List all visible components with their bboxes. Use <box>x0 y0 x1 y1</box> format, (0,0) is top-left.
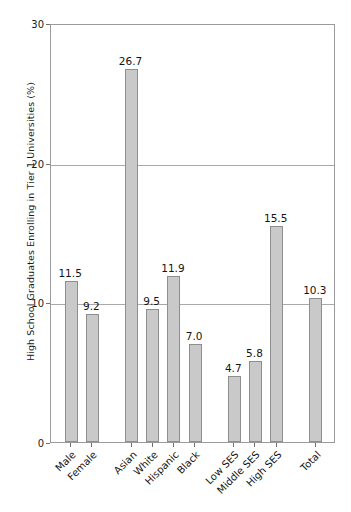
plot-area <box>50 24 335 443</box>
gridline <box>51 165 334 166</box>
bar <box>146 309 159 442</box>
bar <box>309 298 322 442</box>
bar-value-label: 7.0 <box>186 330 203 342</box>
bar <box>65 281 78 442</box>
bar-value-label: 15.5 <box>264 212 287 224</box>
bar <box>125 69 138 442</box>
bar-value-label: 9.2 <box>83 300 100 312</box>
bar-value-label: 11.5 <box>58 267 81 279</box>
y-axis-tick-label: 20 <box>18 158 44 169</box>
bar <box>189 344 202 442</box>
bar-value-label: 9.5 <box>143 295 160 307</box>
y-axis-tick-label: 30 <box>18 19 44 30</box>
bar-value-label: 5.8 <box>246 347 263 359</box>
bar <box>167 276 180 442</box>
x-axis-tick-mark <box>276 443 277 447</box>
y-axis-tick-mark <box>46 443 50 444</box>
x-axis-tick-mark <box>315 443 316 447</box>
x-axis-tick-mark <box>233 443 234 447</box>
x-axis-tick-mark <box>254 443 255 447</box>
x-axis-tick-mark <box>194 443 195 447</box>
x-axis-tick-mark <box>152 443 153 447</box>
y-axis-tick-label: 10 <box>18 298 44 309</box>
bar <box>86 314 99 442</box>
y-axis-tick-label: 0 <box>18 438 44 449</box>
bar-value-label: 10.3 <box>303 284 326 296</box>
x-axis-tick-mark <box>91 443 92 447</box>
bar-value-label: 4.7 <box>225 362 242 374</box>
bar <box>249 361 262 442</box>
bar-value-label: 26.7 <box>119 55 142 67</box>
x-axis-tick-mark <box>173 443 174 447</box>
bar-value-label: 11.9 <box>161 262 184 274</box>
bar-chart-figure: High School Graduates Enrolling in Tier … <box>0 0 351 512</box>
bar <box>270 226 283 442</box>
x-axis-tick-mark <box>131 443 132 447</box>
x-axis-tick-mark <box>70 443 71 447</box>
y-axis-title: High School Graduates Enrolling in Tier … <box>22 0 40 443</box>
bar <box>228 376 241 442</box>
